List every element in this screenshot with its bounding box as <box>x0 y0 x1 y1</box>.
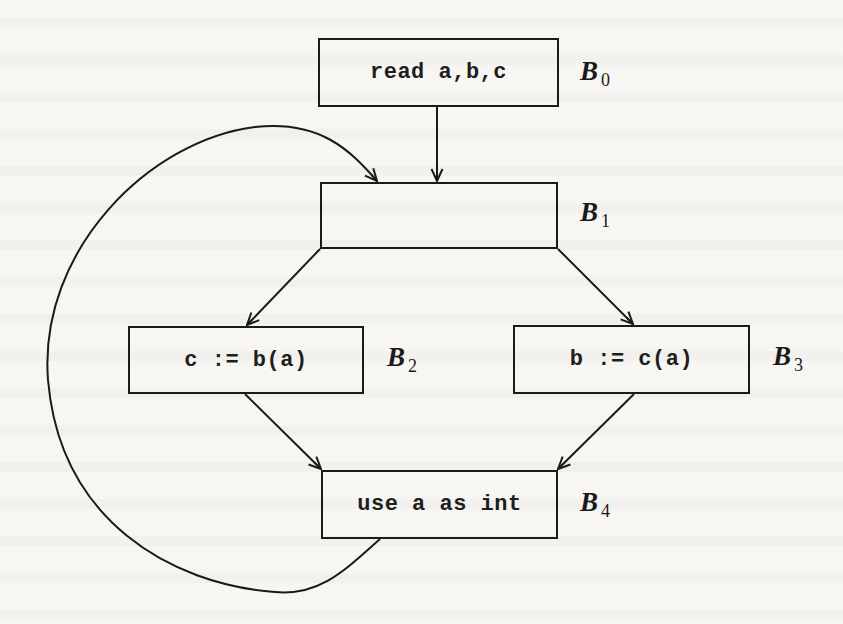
label-letter: B <box>580 487 598 517</box>
edge-b2-b4 <box>245 394 321 469</box>
label-subscript: 0 <box>601 70 610 90</box>
block-b4-label: B4 <box>580 489 610 520</box>
block-b3-label: B3 <box>773 343 803 374</box>
label-subscript: 1 <box>601 211 610 231</box>
label-letter: B <box>580 56 598 86</box>
block-b2: c := b(a) <box>128 326 364 394</box>
block-b0-code: read a,b,c <box>370 60 507 85</box>
block-b1 <box>320 182 558 249</box>
block-b4: use a as int <box>321 470 558 539</box>
diagram-canvas: read a,b,c B0 B1 c := b(a) B2 b := c(a) … <box>0 0 843 624</box>
edge-b1-b3 <box>558 249 633 324</box>
label-subscript: 3 <box>794 355 803 375</box>
label-letter: B <box>773 341 791 371</box>
block-b1-label: B1 <box>580 199 610 230</box>
block-b0: read a,b,c <box>318 38 559 107</box>
edge-b1-b2 <box>247 249 320 325</box>
block-b4-code: use a as int <box>357 492 521 517</box>
label-subscript: 4 <box>601 501 610 521</box>
block-b3-code: b := c(a) <box>570 347 693 372</box>
block-b3: b := c(a) <box>513 325 750 394</box>
label-subscript: 2 <box>408 356 417 376</box>
block-b2-code: c := b(a) <box>184 348 307 373</box>
edge-b3-b4 <box>558 394 634 469</box>
block-b2-label: B2 <box>387 344 417 375</box>
block-b0-label: B0 <box>580 58 610 89</box>
label-letter: B <box>580 197 598 227</box>
label-letter: B <box>387 342 405 372</box>
